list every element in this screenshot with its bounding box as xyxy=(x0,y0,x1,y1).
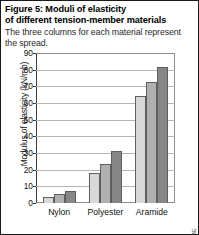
y-tick-label: 80 xyxy=(24,65,33,75)
y-tick-label: 10 xyxy=(24,181,33,191)
y-tick-label: 0 xyxy=(28,198,33,208)
x-tick-label: Polyester xyxy=(88,207,124,217)
bar xyxy=(111,151,122,204)
y-tick-label: 30 xyxy=(24,148,33,158)
bar xyxy=(157,67,168,203)
figure-title: Figure 5: Moduli of elasticity of differ… xyxy=(5,4,194,26)
side-reference-code: SAM01:24E xyxy=(191,228,197,235)
y-tick-label: 90 xyxy=(24,48,33,58)
bar xyxy=(65,191,76,204)
bar xyxy=(146,82,157,203)
y-tick-label: 20 xyxy=(24,165,33,175)
y-tick-label: 40 xyxy=(24,131,33,141)
x-tick-label: Aramide xyxy=(136,207,168,217)
y-tick-mark xyxy=(33,203,36,204)
bar-chart: Modulus of elasticity (kN/mb) 0102030405… xyxy=(5,51,191,235)
figure-title-line-2: of different tension-member materials xyxy=(5,15,166,25)
y-tick-label: 60 xyxy=(24,98,33,108)
figure-card: Figure 5: Moduli of elasticity of differ… xyxy=(0,0,199,235)
bars-layer xyxy=(36,53,175,203)
bar-group xyxy=(129,53,175,203)
bar-group xyxy=(82,53,128,203)
bar xyxy=(43,197,54,203)
bar-group xyxy=(36,53,82,203)
bar xyxy=(54,194,65,203)
y-tick-label: 70 xyxy=(24,81,33,91)
figure-title-line-1: Figure 5: Moduli of elasticity xyxy=(5,4,126,14)
bar xyxy=(100,164,111,203)
plot-wrap: 0102030405060708090 NylonPolyesterAramid… xyxy=(36,53,175,203)
bar xyxy=(89,173,100,203)
figure-subtitle: The three columns for each material repr… xyxy=(5,27,194,48)
y-tick-label: 50 xyxy=(24,115,33,125)
x-tick-label: Nylon xyxy=(48,207,70,217)
bar xyxy=(135,96,146,204)
